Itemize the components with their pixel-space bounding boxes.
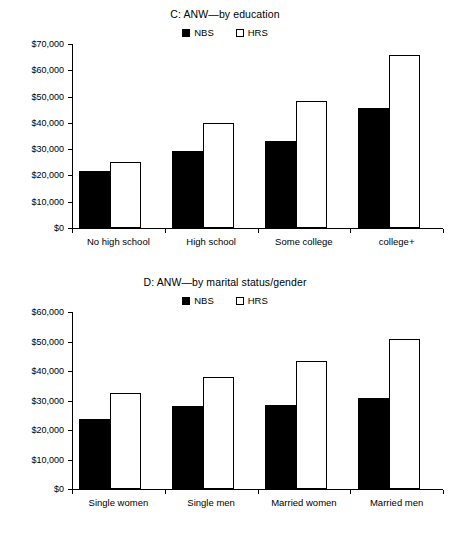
legend-swatch-hrs-icon [236, 29, 244, 37]
y-axis-line [72, 312, 73, 490]
y-axis-tick-mark [68, 460, 72, 461]
y-axis-tick-mark [68, 342, 72, 343]
y-axis-tick-mark [68, 430, 72, 431]
bar-nbs-0 [79, 419, 110, 489]
chart-c-legend: NBS HRS [0, 27, 450, 38]
y-axis-tick-mark [68, 202, 72, 203]
bar-hrs-1 [203, 123, 234, 228]
y-axis-tick-label: $10,000 [0, 455, 64, 465]
bar-hrs-0 [110, 162, 141, 228]
x-axis-category-label: Single men [187, 497, 235, 508]
y-axis-tick-mark [68, 123, 72, 124]
y-axis-tick-label: $20,000 [0, 425, 64, 435]
x-axis-tick-mark [165, 490, 166, 494]
chart-panel-c: C: ANW—by education NBS HRS $0$10,000$20… [0, 0, 450, 265]
x-axis-tick-mark [443, 490, 444, 494]
chart-d-plot-area: $0$10,000$20,000$30,000$40,000$50,000$60… [0, 308, 450, 523]
y-axis-tick-label: $70,000 [0, 39, 64, 49]
x-axis-tick-mark [165, 229, 166, 233]
bar-hrs-2 [296, 101, 327, 228]
x-axis-tick-mark [72, 490, 73, 494]
y-axis-tick-label: $10,000 [0, 197, 64, 207]
legend-swatch-hrs-icon [236, 297, 244, 305]
y-axis-tick-label: $50,000 [0, 337, 64, 347]
legend-label-nbs: NBS [194, 27, 214, 38]
y-axis-tick-label: $40,000 [0, 366, 64, 376]
x-axis-tick-mark [443, 229, 444, 233]
chart-d-legend: NBS HRS [0, 295, 450, 306]
y-axis-tick-label: $30,000 [0, 396, 64, 406]
y-axis-tick-label: $0 [0, 484, 64, 494]
chart-d-title: D: ANW—by marital status/gender [0, 268, 450, 288]
legend-swatch-nbs-icon [182, 297, 190, 305]
y-axis-line [72, 44, 73, 229]
legend-entry-hrs: HRS [236, 295, 268, 306]
bar-nbs-0 [79, 171, 110, 228]
x-axis-tick-mark [258, 229, 259, 233]
y-axis-tick-mark [68, 44, 72, 45]
y-axis-tick-mark [68, 175, 72, 176]
legend-label-hrs: HRS [248, 27, 268, 38]
y-axis-tick-mark [68, 312, 72, 313]
y-axis-tick-label: $50,000 [0, 92, 64, 102]
legend-entry-nbs: NBS [182, 295, 214, 306]
y-axis-tick-label: $30,000 [0, 144, 64, 154]
x-axis-category-label: Single women [89, 497, 149, 508]
legend-label-hrs: HRS [248, 295, 268, 306]
y-axis-tick-mark [68, 401, 72, 402]
y-axis-tick-mark [68, 149, 72, 150]
x-axis-tick-mark [72, 229, 73, 233]
x-axis-category-label: High school [186, 236, 236, 247]
x-axis-tick-mark [350, 229, 351, 233]
bar-nbs-3 [358, 398, 389, 489]
legend-entry-hrs: HRS [236, 27, 268, 38]
chart-panel-d: D: ANW—by marital status/gender NBS HRS … [0, 268, 450, 533]
y-axis-tick-label: $20,000 [0, 170, 64, 180]
bar-nbs-1 [172, 406, 203, 489]
y-axis-tick-label: $60,000 [0, 307, 64, 317]
bar-nbs-2 [265, 141, 296, 228]
bar-hrs-3 [389, 339, 420, 489]
x-axis-category-label: college+ [379, 236, 415, 247]
y-axis-tick-label: $0 [0, 223, 64, 233]
bar-hrs-2 [296, 361, 327, 489]
y-axis-tick-mark [68, 97, 72, 98]
x-axis-category-label: Married women [271, 497, 336, 508]
x-axis-category-label: Some college [275, 236, 333, 247]
bar-nbs-1 [172, 151, 203, 228]
legend-swatch-nbs-icon [182, 29, 190, 37]
chart-c-plot-area: $0$10,000$20,000$30,000$40,000$50,000$60… [0, 40, 450, 255]
bar-nbs-2 [265, 405, 296, 489]
y-axis-tick-mark [68, 371, 72, 372]
bar-hrs-1 [203, 377, 234, 489]
y-axis-tick-label: $40,000 [0, 118, 64, 128]
legend-entry-nbs: NBS [182, 27, 214, 38]
y-axis-tick-label: $60,000 [0, 65, 64, 75]
bar-hrs-3 [389, 55, 420, 228]
x-axis-tick-mark [258, 490, 259, 494]
x-axis-category-label: No high school [87, 236, 150, 247]
bar-hrs-0 [110, 393, 141, 489]
y-axis-tick-mark [68, 70, 72, 71]
x-axis-tick-mark [350, 490, 351, 494]
legend-label-nbs: NBS [194, 295, 214, 306]
x-axis-category-label: Married men [370, 497, 423, 508]
bar-nbs-3 [358, 108, 389, 228]
chart-c-title: C: ANW—by education [0, 0, 450, 20]
